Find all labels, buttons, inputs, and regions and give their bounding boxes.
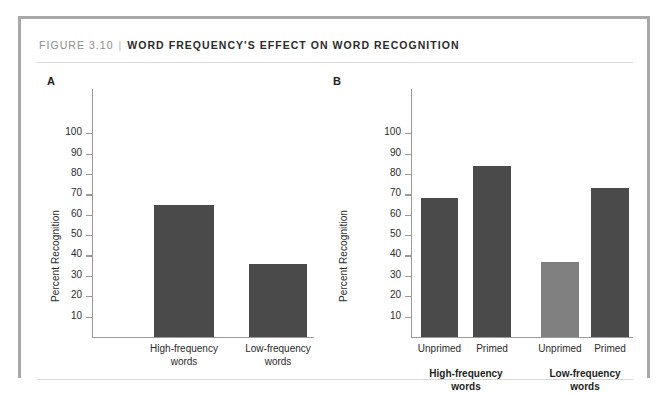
footer-divider <box>37 379 633 380</box>
y-axis-tick-label: 10 <box>390 310 401 321</box>
figure-separator: | <box>114 39 128 51</box>
y-axis-tick: 50 <box>405 235 411 236</box>
y-axis-tick: 20 <box>405 296 411 297</box>
y-axis-tick: 90 <box>405 154 411 155</box>
y-axis-tick: 60 <box>405 215 411 216</box>
y-axis-tick: 100 <box>405 133 411 134</box>
bar <box>541 262 579 337</box>
y-axis-tick-label: 50 <box>71 228 82 239</box>
panel-b-x-axis <box>411 337 633 338</box>
y-axis-tick: 30 <box>405 276 411 277</box>
bar-category-label: Primed <box>550 343 670 356</box>
figure-title: WORD FREQUENCY'S EFFECT ON WORD RECOGNIT… <box>127 39 459 51</box>
panel-a-y-axis-title: Percent Recognition <box>50 210 61 302</box>
y-axis-tick-label: 50 <box>390 228 401 239</box>
y-axis-tick-label: 10 <box>71 310 82 321</box>
y-axis-tick-label: 80 <box>390 167 401 178</box>
bar-group-label: High-frequencywords <box>406 368 526 393</box>
panel-a-y-axis <box>92 89 93 337</box>
y-axis-tick: 90 <box>86 154 92 155</box>
chart-panel-b: B Percent Recognition 102030405060708090… <box>321 67 641 367</box>
y-axis-tick: 30 <box>86 276 92 277</box>
y-axis-tick-label: 20 <box>390 289 401 300</box>
y-axis-tick: 60 <box>86 215 92 216</box>
figure-number: FIGURE 3.10 <box>39 39 114 51</box>
bar <box>249 264 307 337</box>
figure-header: FIGURE 3.10|WORD FREQUENCY'S EFFECT ON W… <box>21 19 647 63</box>
y-axis-tick: 50 <box>86 235 92 236</box>
y-axis-tick: 10 <box>405 317 411 318</box>
y-axis-tick: 20 <box>86 296 92 297</box>
y-axis-tick-label: 70 <box>71 187 82 198</box>
panel-a-letter: A <box>47 75 55 87</box>
y-axis-tick: 10 <box>86 317 92 318</box>
y-axis-tick-label: 90 <box>71 147 82 158</box>
bar <box>473 166 511 337</box>
figure-card: FIGURE 3.10|WORD FREQUENCY'S EFFECT ON W… <box>18 16 650 378</box>
y-axis-tick-label: 80 <box>71 167 82 178</box>
y-axis-tick-label: 20 <box>71 289 82 300</box>
y-axis-tick-label: 60 <box>390 208 401 219</box>
header-divider <box>37 62 633 63</box>
y-axis-tick-label: 90 <box>390 147 401 158</box>
bar <box>591 188 629 337</box>
y-axis-tick-label: 40 <box>390 248 401 259</box>
bar-category-label: Low-frequencywords <box>218 343 338 368</box>
y-axis-tick: 100 <box>86 133 92 134</box>
y-axis-tick-label: 30 <box>390 269 401 280</box>
y-axis-tick: 80 <box>86 174 92 175</box>
panel-b-y-axis-title: Percent Recognition <box>338 210 349 302</box>
chart-panel-a: A Percent Recognition 102030405060708090… <box>31 67 331 367</box>
y-axis-tick: 70 <box>405 194 411 195</box>
y-axis-tick: 70 <box>86 194 92 195</box>
panel-a-plot-area: 102030405060708090100High-frequencywords… <box>92 67 322 367</box>
panel-a-x-axis <box>92 337 314 338</box>
y-axis-tick-label: 100 <box>384 126 401 137</box>
y-axis-tick-label: 40 <box>71 248 82 259</box>
y-axis-tick-label: 60 <box>71 208 82 219</box>
y-axis-tick-label: 70 <box>390 187 401 198</box>
y-axis-tick: 80 <box>405 174 411 175</box>
y-axis-tick: 40 <box>86 255 92 256</box>
panel-b-y-axis <box>411 89 412 337</box>
bar <box>421 198 458 337</box>
y-axis-tick-label: 100 <box>65 126 82 137</box>
bar-group-label: Low-frequencywords <box>525 368 645 393</box>
panel-b-plot-area: 102030405060708090100UnprimedPrimedUnpri… <box>411 67 636 367</box>
y-axis-tick-label: 30 <box>71 269 82 280</box>
bar <box>154 205 214 337</box>
y-axis-tick: 40 <box>405 255 411 256</box>
panel-b-letter: B <box>333 75 341 87</box>
